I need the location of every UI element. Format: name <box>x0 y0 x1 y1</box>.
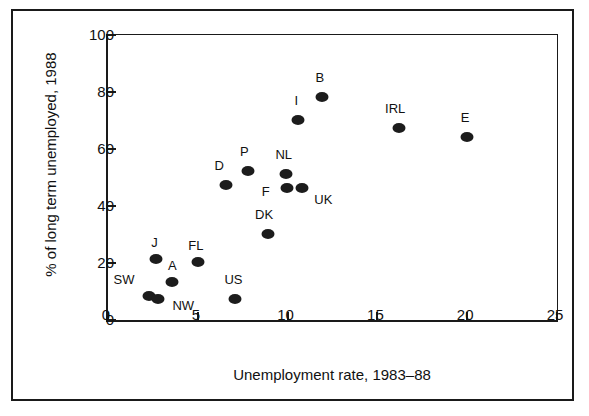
data-point-label: P <box>240 144 249 157</box>
y-axis-tick-label: 80 <box>97 84 114 99</box>
data-point <box>392 123 405 133</box>
data-point-label: E <box>461 110 470 123</box>
data-point <box>150 254 163 264</box>
data-point <box>279 169 292 179</box>
data-point-label: B <box>315 70 324 83</box>
y-axis-title: % of long term unemployed, 1988 <box>42 25 59 305</box>
data-point <box>229 294 242 304</box>
data-point <box>191 257 204 267</box>
y-axis-tick-label: 60 <box>97 141 114 156</box>
data-point-label: A <box>168 258 177 271</box>
y-axis-tick-label: 100 <box>89 27 114 42</box>
data-point-label: US <box>224 273 242 286</box>
x-axis-tick-label: 10 <box>277 307 294 322</box>
x-axis-tick-label: 25 <box>547 307 564 322</box>
x-axis-tick-label: 20 <box>457 307 474 322</box>
y-axis-tick-label: 40 <box>97 198 114 213</box>
data-point <box>292 115 305 125</box>
data-point-label: I <box>295 93 299 106</box>
data-point <box>460 132 473 142</box>
data-point <box>295 183 308 193</box>
y-axis-tick-label: 20 <box>97 255 114 270</box>
data-point-label: NL <box>275 147 292 160</box>
y-axis-tick-label: 0 <box>106 312 114 327</box>
data-point-label: SW <box>113 273 134 286</box>
data-point <box>152 294 165 304</box>
data-point-label: DK <box>255 207 273 220</box>
data-point-label: NW <box>172 298 194 311</box>
data-point <box>315 92 328 102</box>
data-point-label: FL <box>188 238 203 251</box>
data-point <box>241 166 254 176</box>
data-point-label: UK <box>314 193 332 206</box>
data-point <box>220 180 233 190</box>
data-point-label: F <box>262 184 270 197</box>
data-point-label: D <box>214 159 223 172</box>
data-point-label: J <box>151 236 158 249</box>
data-point <box>261 229 274 239</box>
data-point <box>281 183 294 193</box>
x-axis-title: Unemployment rate, 1983–88 <box>106 366 558 383</box>
x-axis-tick-label: 15 <box>367 307 384 322</box>
data-point <box>166 277 179 287</box>
data-point-label: IRL <box>385 102 405 115</box>
figure-outer-border: Unemployment rate, 1983–88 % of long ter… <box>11 9 574 401</box>
